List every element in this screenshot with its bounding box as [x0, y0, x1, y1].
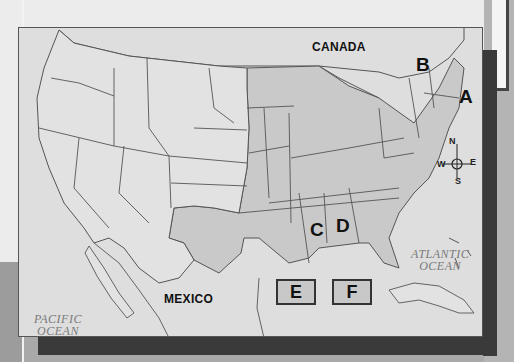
map-frame: CANADA MEXICO B A C D PACIFIC OCEAN ATLA… — [18, 27, 483, 337]
frame-shadow-right — [483, 50, 497, 356]
country-label-mexico: MEXICO — [164, 292, 213, 306]
marker-b: B — [416, 54, 430, 76]
marker-d: D — [336, 215, 350, 237]
frame-shadow-bottom — [38, 337, 497, 355]
marker-a: A — [459, 86, 473, 108]
answer-box-f[interactable]: F — [332, 279, 372, 305]
ocean-label-pacific: PACIFIC OCEAN — [34, 313, 82, 337]
us-map — [19, 28, 483, 337]
country-label-canada: CANADA — [312, 40, 366, 54]
compass-rose-icon: N W E S — [437, 138, 477, 184]
ocean-label-atlantic: ATLANTIC OCEAN — [411, 248, 469, 272]
answer-box-e[interactable]: E — [276, 279, 316, 305]
marker-c: C — [310, 219, 324, 241]
